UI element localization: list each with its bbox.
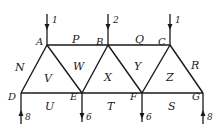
node-label-b: B [96, 37, 103, 47]
arrow-up-icon [201, 93, 206, 124]
arrow-down-icon [45, 14, 50, 45]
space-label-u: U [45, 101, 54, 112]
space-label-x: X [104, 72, 112, 83]
force-label-b: 2 [113, 16, 119, 25]
force-label-a: 1 [52, 16, 58, 25]
arrow-up-icon [19, 93, 24, 124]
space-label-t: T [107, 101, 114, 112]
node-label-e: E [70, 92, 77, 102]
arrow-down-icon [80, 93, 85, 122]
node-label-g: G [192, 92, 200, 102]
truss-drawing [0, 0, 220, 134]
space-label-y: Y [134, 61, 141, 72]
space-label-v: V [44, 73, 52, 84]
arrow-down-icon [106, 14, 111, 45]
arrow-down-icon [140, 93, 145, 122]
force-label-e: 6 [86, 113, 92, 122]
space-label-p: P [72, 34, 79, 45]
member-FC [142, 45, 170, 93]
space-label-s: S [168, 101, 176, 112]
force-label-f: 6 [146, 113, 152, 122]
space-label-r: R [191, 60, 199, 71]
force-label-g: 8 [207, 113, 213, 122]
force-label-c: 1 [175, 16, 181, 25]
space-label-w: W [73, 61, 84, 72]
space-label-n: N [15, 62, 25, 73]
space-label-q: Q [135, 34, 144, 45]
node-label-a: A [36, 37, 43, 47]
space-label-z: Z [166, 72, 174, 83]
node-label-c: C [158, 37, 166, 47]
node-label-d: D [8, 92, 16, 102]
force-label-d: 8 [25, 113, 31, 122]
node-label-f: F [130, 92, 137, 102]
arrow-down-icon [168, 14, 173, 45]
member-EB [82, 45, 108, 93]
